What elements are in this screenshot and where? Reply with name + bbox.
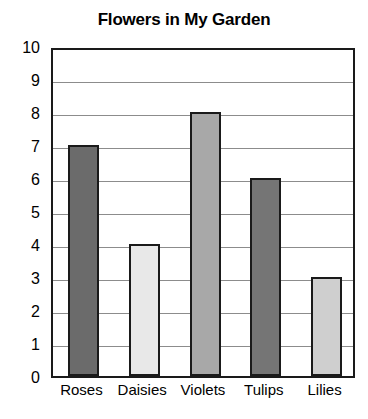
y-tick-label: 6 [0,172,45,188]
bar-chart: Flowers in My Garden 012345678910 RosesD… [0,0,368,419]
y-tick-label: 1 [0,337,45,353]
plot-area [51,48,355,378]
y-tick-label: 4 [0,238,45,254]
y-tick-label: 7 [0,139,45,155]
bar-violets [190,112,221,376]
y-tick-label: 8 [0,106,45,122]
x-tick-label-violets: Violets [181,380,226,400]
y-tick-label: 0 [0,370,45,386]
y-tick-label: 2 [0,304,45,320]
bar-roses [68,145,99,376]
x-tick-label-lilies: Lilies [308,380,342,400]
chart-title: Flowers in My Garden [0,10,368,30]
y-axis: 012345678910 [0,48,45,378]
x-axis: RosesDaisiesVioletsTulipsLilies [51,380,355,404]
bar-tulips [250,178,281,376]
x-tick-label-tulips: Tulips [244,380,283,400]
x-tick-label-daisies: Daisies [118,380,167,400]
y-tick-label: 9 [0,73,45,89]
x-tick-label-roses: Roses [60,380,103,400]
y-tick-label: 3 [0,271,45,287]
bar-lilies [311,277,342,376]
bars-layer [53,50,353,376]
y-tick-label: 5 [0,205,45,221]
y-tick-label: 10 [0,40,45,56]
bar-daisies [129,244,160,376]
